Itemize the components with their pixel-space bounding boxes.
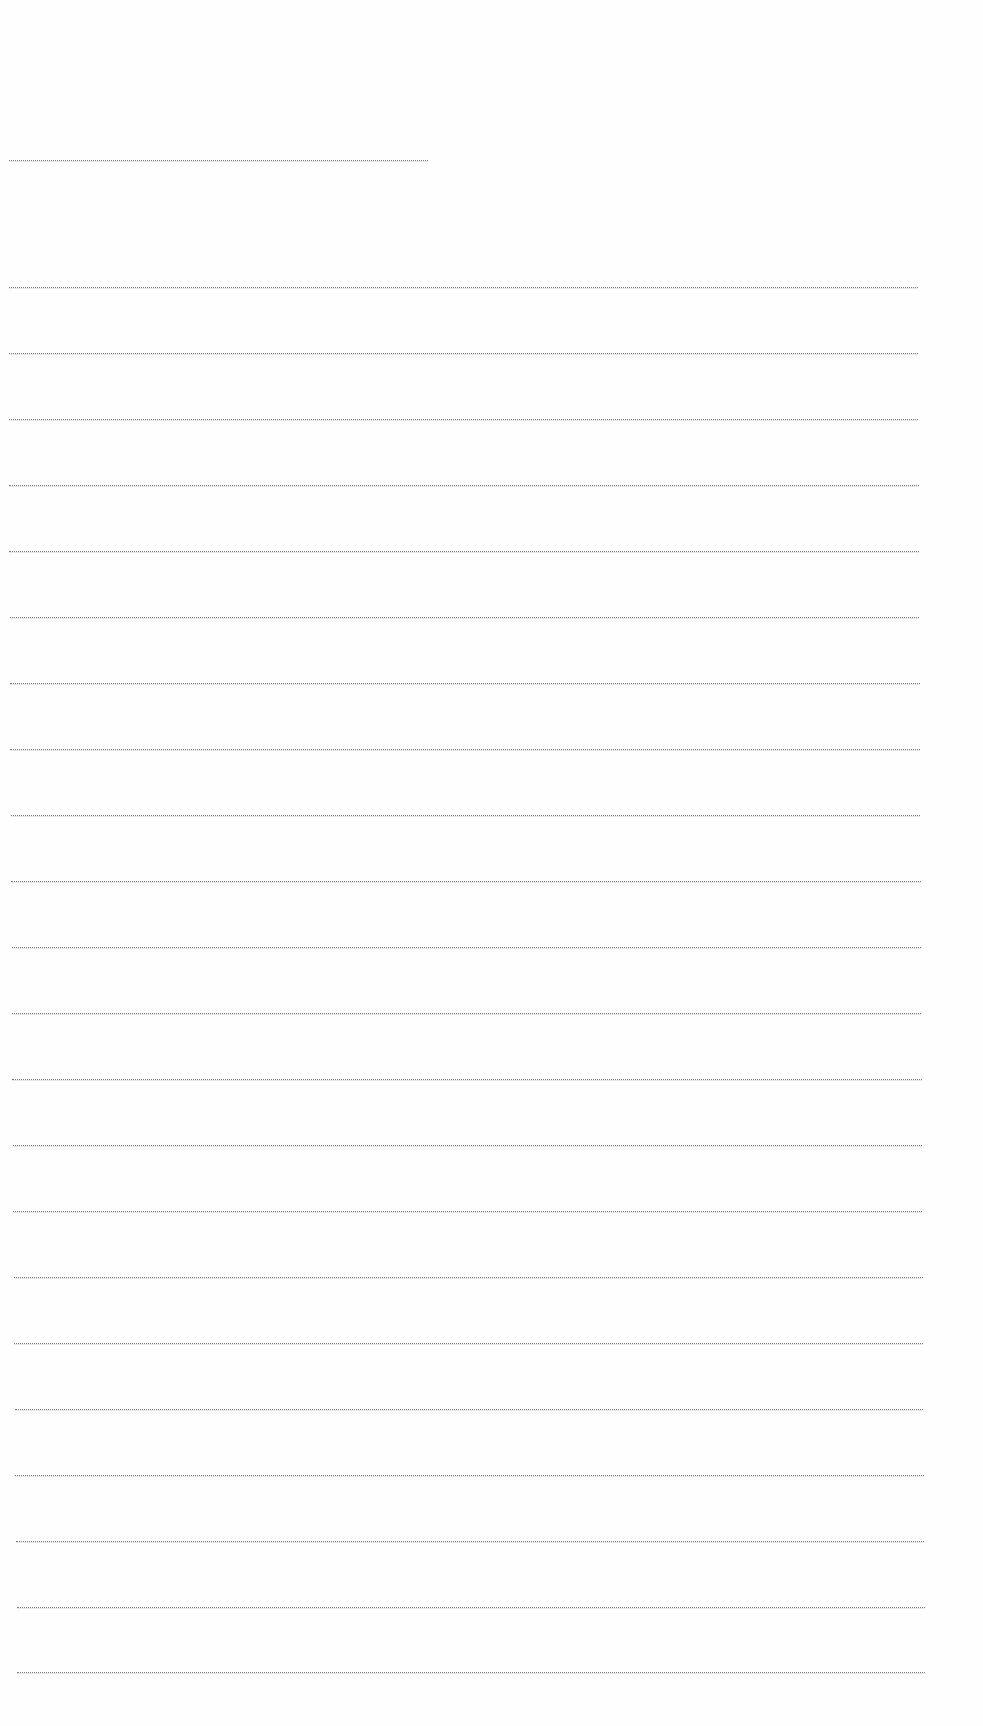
rule-line: [12, 1079, 922, 1080]
rule-line: [17, 1672, 925, 1673]
rule-line: [10, 617, 919, 618]
rule-line: [16, 1541, 924, 1542]
rule-line: [15, 1475, 924, 1476]
rule-line: [9, 485, 919, 486]
rule-line: [9, 353, 918, 354]
rule-line: [13, 1145, 922, 1146]
rule-line: [11, 881, 921, 882]
short-rule-line: [9, 160, 428, 161]
rule-line: [13, 1211, 922, 1212]
rule-line: [9, 287, 918, 288]
rule-line: [11, 815, 920, 816]
rule-line: [14, 1343, 923, 1344]
rule-line: [9, 551, 919, 552]
rule-line: [10, 683, 920, 684]
rule-line: [15, 1409, 923, 1410]
rule-line: [12, 947, 921, 948]
rule-line: [14, 1277, 923, 1278]
rule-line: [17, 1607, 925, 1608]
rule-line: [10, 749, 920, 750]
rule-line: [9, 419, 918, 420]
blank-lined-page: [0, 0, 983, 1726]
rule-line: [12, 1013, 921, 1014]
